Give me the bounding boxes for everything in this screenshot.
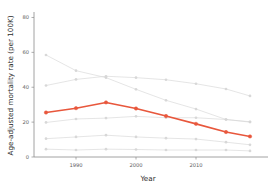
series-marker xyxy=(135,76,138,79)
series-marker xyxy=(75,69,78,72)
x-axis-title: Year xyxy=(139,174,155,183)
y-axis-title: Age-adjusted mortality rate (per 100K) xyxy=(6,15,15,155)
chart-series xyxy=(45,54,252,123)
series-marker xyxy=(135,136,138,139)
series-marker xyxy=(45,54,48,57)
series-marker xyxy=(195,138,198,141)
x-tick-label: 2000 xyxy=(129,162,142,168)
series-marker xyxy=(248,135,251,138)
series-marker xyxy=(164,114,167,117)
series-marker xyxy=(45,148,48,151)
x-axis-tick-labels: 199020002010 xyxy=(69,162,202,168)
series-marker xyxy=(249,143,252,146)
series-marker xyxy=(249,150,252,153)
y-tick-label: 40 xyxy=(22,84,29,90)
series-layer xyxy=(44,54,251,153)
series-marker xyxy=(224,130,227,133)
y-axis-tick-labels: 020406080 xyxy=(22,14,29,160)
series-marker xyxy=(75,118,78,121)
series-marker xyxy=(105,117,108,120)
series-marker xyxy=(195,116,198,119)
series-marker xyxy=(135,88,138,91)
series-marker xyxy=(45,84,48,87)
series-marker xyxy=(75,78,78,81)
series-marker xyxy=(135,115,138,118)
series-marker xyxy=(194,122,197,125)
series-marker xyxy=(165,99,168,102)
series-marker xyxy=(75,136,78,139)
series-marker xyxy=(225,118,228,121)
series-marker xyxy=(105,75,108,78)
y-tick-label: 0 xyxy=(26,154,29,160)
series-marker xyxy=(165,78,168,81)
series-marker xyxy=(74,106,77,109)
series-marker xyxy=(45,121,48,124)
series-marker xyxy=(249,95,252,98)
series-marker xyxy=(195,108,198,111)
y-tick-label: 20 xyxy=(22,119,29,125)
chart-series xyxy=(45,134,252,146)
chart-series xyxy=(45,148,252,152)
series-marker xyxy=(195,82,198,85)
series-marker xyxy=(195,149,198,152)
series-marker xyxy=(105,134,108,137)
series-marker xyxy=(225,149,228,152)
series-marker xyxy=(249,121,252,124)
series-marker xyxy=(44,111,47,114)
x-tick-label: 2010 xyxy=(189,162,202,168)
series-marker xyxy=(225,141,228,144)
series-marker xyxy=(225,88,228,91)
series-marker xyxy=(45,137,48,140)
chart-series xyxy=(45,115,252,124)
series-marker xyxy=(165,137,168,140)
series-marker xyxy=(134,107,137,110)
series-marker xyxy=(75,149,78,152)
series-marker xyxy=(105,148,108,151)
y-tick-label: 60 xyxy=(22,49,29,55)
line-chart-plot: 020406080 199020002010 Year Age-adjusted… xyxy=(0,0,272,187)
chart-figure: 020406080 199020002010 Year Age-adjusted… xyxy=(0,0,272,187)
series-marker xyxy=(104,101,107,104)
series-marker xyxy=(165,149,168,152)
y-tick-label: 80 xyxy=(22,14,29,20)
x-tick-label: 1990 xyxy=(69,162,82,168)
series-marker xyxy=(135,148,138,151)
